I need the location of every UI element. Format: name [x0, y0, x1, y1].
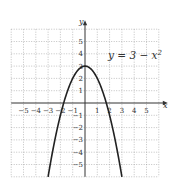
equation-label: y = 3 − x2 [107, 49, 162, 61]
x-tick-label: 1 [95, 107, 99, 115]
x-tick-label: −4 [31, 107, 42, 115]
x-tick-label: −3 [43, 107, 53, 115]
y-tick-label: −2 [73, 124, 83, 132]
x-tick-label: 5 [144, 107, 148, 115]
y-tick-label: 4 [79, 50, 84, 58]
y-tick-label: −4 [73, 149, 84, 157]
x-tick-label: −5 [18, 107, 28, 115]
y-tick-label: 5 [79, 38, 83, 46]
x-tick-label: 3 [120, 107, 124, 115]
parabola-chart: −5−4−3−2−112345−5−4−3−2−112345 y = 3 − x… [0, 0, 176, 188]
x-axis-label: x [163, 101, 168, 110]
x-tick-label: 4 [132, 107, 137, 115]
y-tick-label: −3 [73, 136, 83, 144]
y-axis-label: y [78, 17, 84, 26]
y-tick-label: −5 [73, 161, 83, 169]
y-tick-label: −1 [73, 112, 83, 120]
y-tick-label: 1 [79, 87, 83, 95]
y-tick-label: 2 [79, 75, 83, 83]
axes [11, 20, 168, 177]
